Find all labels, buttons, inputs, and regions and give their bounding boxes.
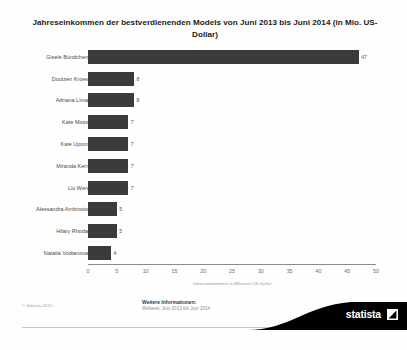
- bar-row: Doutzen Kroes8: [0, 68, 407, 90]
- bar-category-label: Kate Upton: [0, 141, 88, 147]
- bar-value-label: 4: [111, 250, 116, 256]
- x-axis-tick-label: 30: [258, 268, 264, 274]
- bar-value-label: 7: [128, 119, 133, 125]
- x-axis-tick-label: 35: [287, 268, 293, 274]
- x-axis-tick-label: 5: [115, 268, 118, 274]
- x-axis-tick-label: 40: [316, 268, 322, 274]
- bar-value-label: 7: [128, 141, 133, 147]
- bar-row: Hilary Rhoda5: [0, 220, 407, 242]
- x-axis-tick-label: 15: [172, 268, 178, 274]
- x-axis-tick-label: 0: [87, 268, 90, 274]
- bar-container: 7: [88, 137, 388, 151]
- chart-footer: © Statista 2015 Weitere Informationen: W…: [0, 296, 407, 350]
- bar-container: 4: [88, 246, 388, 260]
- bar-container: 7: [88, 181, 388, 195]
- bar-category-label: Alessandra Ambrosio: [0, 206, 88, 212]
- statista-arrow-icon: [387, 309, 398, 320]
- x-axis-tick-label: 50: [373, 268, 379, 274]
- x-axis-caption: Jahreseinkommen in Millionen US-Dollar: [88, 281, 376, 286]
- chart-area: Gisele Bündchen47Doutzen Kroes8Adriana L…: [0, 46, 407, 276]
- bar-category-label: Natalia Vodianova: [0, 250, 88, 256]
- copyright-text: © Statista 2015: [22, 303, 52, 308]
- bar-container: 8: [88, 93, 388, 107]
- bar: [88, 72, 134, 86]
- bar: [88, 159, 128, 173]
- bar-category-label: Miranda Kerr: [0, 163, 88, 169]
- bar: [88, 202, 117, 216]
- bar: [88, 50, 359, 64]
- statista-wordmark: statista: [346, 308, 381, 320]
- bar-row: Adriana Lima8: [0, 90, 407, 112]
- bar-container: 8: [88, 72, 388, 86]
- bar-value-label: 8: [134, 97, 139, 103]
- bar-value-label: 47: [359, 54, 367, 60]
- bar-container: 5: [88, 202, 388, 216]
- x-axis-ticks: 05101520253035404550: [88, 266, 376, 280]
- bar-category-label: Doutzen Kroes: [0, 76, 88, 82]
- bar-rows: Gisele Bündchen47Doutzen Kroes8Adriana L…: [0, 46, 407, 264]
- bar-row: Alessandra Ambrosio5: [0, 199, 407, 221]
- x-axis-tick-label: 20: [200, 268, 206, 274]
- x-axis-tick-label: 45: [344, 268, 350, 274]
- bar: [88, 137, 128, 151]
- bar: [88, 224, 117, 238]
- bar-category-label: Kate Moss: [0, 119, 88, 125]
- bar: [88, 246, 111, 260]
- bar-value-label: 7: [128, 185, 133, 191]
- bar: [88, 115, 128, 129]
- bar-row: Natalia Vodianova4: [0, 242, 407, 264]
- x-axis-tick-label: 25: [229, 268, 235, 274]
- bar-value-label: 5: [117, 206, 122, 212]
- chart-page: Jahreseinkommen der bestverdienenden Mod…: [0, 0, 407, 350]
- bar-container: 5: [88, 224, 388, 238]
- banner-swoosh-shape: [247, 300, 407, 330]
- bar-row: Gisele Bündchen47: [0, 46, 407, 68]
- bar-value-label: 8: [134, 76, 139, 82]
- bar-category-label: Hilary Rhoda: [0, 228, 88, 234]
- bar-category-label: Liu Wen: [0, 185, 88, 191]
- further-info-detail: Weltweit; Juni 2013 bis Juni 2014: [142, 306, 210, 311]
- bar-row: Kate Moss7: [0, 111, 407, 133]
- bar-value-label: 5: [117, 228, 122, 234]
- bar-container: 47: [88, 50, 388, 64]
- bar-category-label: Gisele Bündchen: [0, 54, 88, 60]
- bar: [88, 181, 128, 195]
- bar-container: 7: [88, 159, 388, 173]
- statista-logo-banner: statista: [247, 300, 407, 330]
- further-info-title: Weitere Informationen:: [142, 299, 196, 305]
- x-axis-line: [88, 264, 376, 265]
- bar-container: 7: [88, 115, 388, 129]
- bar-row: Liu Wen7: [0, 177, 407, 199]
- bar-value-label: 7: [128, 163, 133, 169]
- bar-category-label: Adriana Lima: [0, 97, 88, 103]
- x-axis-tick-label: 10: [143, 268, 149, 274]
- bar: [88, 93, 134, 107]
- bar-row: Miranda Kerr7: [0, 155, 407, 177]
- bar-row: Kate Upton7: [0, 133, 407, 155]
- chart-title: Jahreseinkommen der bestverdienenden Mod…: [22, 17, 388, 40]
